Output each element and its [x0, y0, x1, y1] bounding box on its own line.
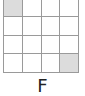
grid-cell [60, 0, 79, 17]
grid-cell [42, 54, 61, 73]
grid-cell [23, 0, 42, 17]
grid-cell [23, 17, 42, 36]
grid-cell [4, 36, 23, 55]
grid-cell [42, 36, 61, 55]
grid-cell [4, 54, 23, 73]
figure-label: F [0, 76, 85, 96]
grid-cell [60, 17, 79, 36]
grid-cell [42, 17, 61, 36]
grid-cell [23, 36, 42, 55]
grid-cell [4, 17, 23, 36]
grid-cell [42, 0, 61, 17]
grid-diagram [3, 0, 79, 73]
grid-cell [23, 54, 42, 73]
shaded-cell [4, 0, 23, 17]
shaded-cell [60, 54, 79, 73]
grid-cell [60, 36, 79, 55]
